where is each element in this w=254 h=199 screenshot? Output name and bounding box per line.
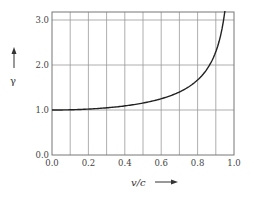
y-tick-labels: 0.01.02.03.0 (35, 15, 49, 160)
x-axis-arrow-icon (155, 180, 178, 185)
grid (52, 12, 234, 155)
x-tick-label: 0.2 (82, 158, 96, 168)
y-tick-label: 2.0 (35, 60, 49, 70)
x-tick-label: 0.6 (154, 158, 168, 168)
y-axis-label: γ (10, 75, 16, 86)
x-tick-label: 0.0 (45, 158, 59, 168)
x-tick-labels: 0.00.20.40.60.81.0 (45, 158, 241, 168)
gamma-curve (52, 11, 225, 110)
y-axis-arrow-icon (12, 47, 17, 68)
y-tick-label: 3.0 (35, 15, 49, 25)
x-tick-label: 0.8 (191, 158, 205, 168)
x-tick-label: 0.4 (118, 158, 132, 168)
y-tick-label: 1.0 (35, 105, 49, 115)
x-axis-label: v/c (131, 177, 146, 188)
x-tick-label: 1.0 (227, 158, 241, 168)
gamma-chart: 0.01.02.03.0 0.00.20.40.60.81.0 γ v/c (0, 0, 254, 199)
